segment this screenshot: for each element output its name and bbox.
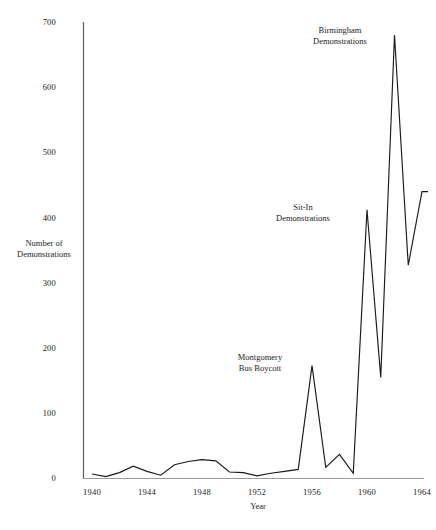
y-axis-title-line2: Demonstrations [8, 249, 80, 260]
y-tick-500: 500 [12, 147, 56, 157]
y-tick-0: 0 [12, 473, 56, 483]
x-tick-1940: 1940 [72, 487, 112, 497]
y-tick-700: 700 [12, 17, 56, 27]
y-axis-title-line1: Number of [8, 238, 80, 249]
x-tick-1944: 1944 [127, 487, 167, 497]
y-tick-300: 300 [12, 278, 56, 288]
y-tick-200: 200 [12, 343, 56, 353]
annotation-sitin-line2: Demonstrations [262, 213, 344, 224]
x-tick-1948: 1948 [182, 487, 222, 497]
x-tick-1956: 1956 [292, 487, 332, 497]
y-tick-400: 400 [12, 213, 56, 223]
y-tick-100: 100 [12, 408, 56, 418]
x-tick-1952: 1952 [237, 487, 277, 497]
x-axis-title: Year [238, 501, 278, 512]
annotation-birmingham-line2: Demonstrations [297, 36, 383, 47]
annotation-birmingham-demonstrations: Birmingham Demonstrations [297, 25, 383, 47]
annotation-sitin-line1: Sit-In [262, 202, 344, 213]
annotation-montgomery-bus-boycott: Montgomery Bus Boycott [215, 352, 305, 374]
data-series-line [92, 35, 428, 477]
x-tick-1964: 1964 [402, 487, 436, 497]
x-tick-1960: 1960 [347, 487, 387, 497]
y-tick-600: 600 [12, 82, 56, 92]
annotation-montgomery-line1: Montgomery [215, 352, 305, 363]
annotation-sit-in-demonstrations: Sit-In Demonstrations [262, 202, 344, 224]
annotation-birmingham-line1: Birmingham [297, 25, 383, 36]
y-axis-title: Number of Demonstrations [8, 238, 80, 260]
annotation-montgomery-line2: Bus Boycott [215, 363, 305, 374]
